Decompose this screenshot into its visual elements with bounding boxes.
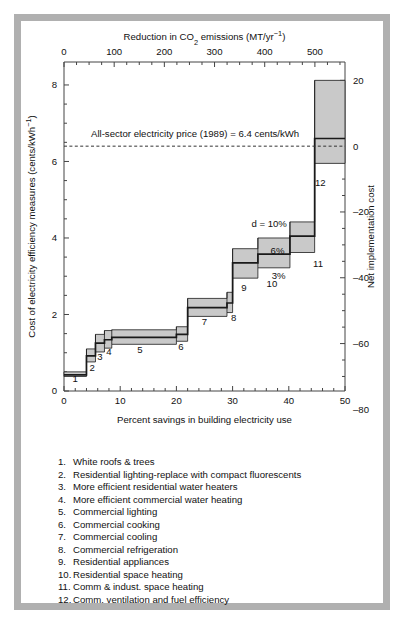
step-number-label: 1	[73, 373, 78, 384]
reference-line-label: All-sector electricity price (1989) = 6.…	[91, 128, 299, 139]
legend-item: 11.Comm & indust. space heating	[58, 581, 358, 594]
legend-item-label: Residential lighting-replace with compac…	[73, 469, 301, 480]
bottom-axis-label: Percent savings in building electricity …	[117, 414, 292, 425]
legend-item-number: 11.	[58, 581, 73, 594]
legend-item-number: 12.	[58, 594, 73, 607]
left-tick-label: 2	[52, 309, 57, 320]
legend-item: 8.Commercial refrigeration	[58, 544, 358, 557]
legend-item-label: Residential appliances	[73, 556, 169, 567]
legend-item-number: 1.	[58, 456, 73, 469]
left-axis-label: Cost of electricity efficiency measures …	[24, 115, 38, 338]
legend-item-number: 5.	[58, 506, 73, 519]
step-number-label: 7	[202, 316, 207, 327]
step-number-label: 6	[178, 341, 183, 352]
cost-band-area	[64, 80, 345, 376]
legend-item: 4.More efficient commercial water heatin…	[58, 494, 358, 507]
right-axis-label: Net implementation cost	[365, 185, 376, 288]
legend-item-number: 4.	[58, 494, 73, 507]
top-tick-label: 100	[106, 46, 122, 57]
curve-d6	[64, 139, 345, 375]
step-number-label: 5	[137, 344, 142, 355]
top-tick-label: 400	[257, 46, 273, 57]
legend-item: 3.More efficient residential water heate…	[58, 481, 358, 494]
legend-item-label: Comm. ventilation and fuel efficiency	[73, 594, 229, 605]
step-number-label: 3	[97, 351, 102, 362]
top-tick-label: 0	[61, 46, 66, 57]
legend-item: 1.White roofs & trees	[58, 456, 358, 469]
legend-item: 12.Comm. ventilation and fuel efficiency	[58, 594, 358, 607]
step-number-label: 9	[241, 282, 246, 293]
bottom-tick-label: 40	[283, 395, 294, 406]
legend-item-number: 7.	[58, 531, 73, 544]
legend-item-label: White roofs & trees	[73, 456, 155, 467]
label-d10: d = 10%	[251, 218, 287, 229]
bottom-tick-label: 30	[227, 395, 238, 406]
legend-item-label: Commercial cooling	[73, 531, 157, 542]
legend-item: 7.Commercial cooling	[58, 531, 358, 544]
legend-item-number: 9.	[58, 556, 73, 569]
left-tick-label: 4	[52, 232, 58, 243]
step-number-label: 12	[315, 177, 326, 188]
figure-root: 01020304050Percent savings in building e…	[0, 0, 416, 638]
legend-item-number: 6.	[58, 519, 73, 532]
right-tick-label: 0	[353, 141, 358, 152]
legend-item: 6.Commercial cooking	[58, 519, 358, 532]
left-tick-label: 6	[52, 156, 57, 167]
step-number-label: 2	[89, 362, 94, 373]
legend-item-label: More efficient residential water heaters	[73, 481, 238, 492]
bottom-tick-label: 20	[171, 395, 182, 406]
legend-item-label: More efficient commercial water heating	[73, 494, 242, 505]
step-number-label: 8	[231, 312, 236, 323]
left-tick-label: 8	[52, 79, 57, 90]
bottom-tick-label: 50	[340, 395, 351, 406]
right-tick-label: 20	[353, 75, 364, 86]
label-d6: 6%	[271, 245, 285, 256]
legend-item-label: Commercial refrigeration	[73, 544, 178, 555]
step-number-label: 4	[106, 346, 112, 357]
legend-item-number: 8.	[58, 544, 73, 557]
legend-item-number: 3.	[58, 481, 73, 494]
label-d3: 3%	[272, 270, 286, 281]
right-tick-label: –60	[353, 338, 369, 349]
left-tick-label: 0	[52, 385, 57, 396]
legend-item-label: Commercial cooking	[73, 519, 160, 530]
bottom-tick-label: 10	[115, 395, 126, 406]
legend-list: 1.White roofs & trees2.Residential light…	[58, 456, 358, 607]
top-tick-label: 300	[207, 46, 223, 57]
legend-item: 10.Residential space heating	[58, 569, 358, 582]
legend-item: 2.Residential lighting-replace with comp…	[58, 469, 358, 482]
legend-item: 5.Commercial lighting	[58, 506, 358, 519]
legend-item: 9.Residential appliances	[58, 556, 358, 569]
top-tick-label: 200	[156, 46, 172, 57]
legend-item-label: Commercial lighting	[73, 506, 157, 517]
legend-item-number: 2.	[58, 469, 73, 482]
top-axis-label: Reduction in CO2 emissions (MT/yr−1)	[124, 29, 286, 47]
top-tick-label: 500	[307, 46, 323, 57]
legend-item-label: Residential space heating	[73, 569, 183, 580]
bottom-tick-label: 0	[61, 395, 66, 406]
legend-item-label: Comm & indust. space heating	[73, 581, 204, 592]
step-number-label: 11	[313, 258, 323, 269]
legend-item-number: 10.	[58, 569, 73, 582]
right-tick-label: –80	[353, 404, 369, 415]
